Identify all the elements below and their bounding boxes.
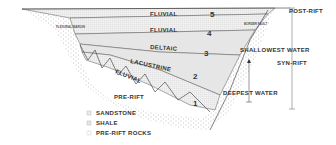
flexural-margin-label: FLEXURAL MARGIN [56, 25, 85, 29]
unit-4-label: FLUVIAL [150, 27, 177, 33]
unit-4-number: 4 [207, 29, 212, 38]
unit-5-label: FLUVIAL [150, 11, 177, 17]
unit-1-number: 1 [193, 99, 198, 108]
border-fault-label: BORDER FAULT [244, 22, 267, 26]
syn-rift-label: SYN-RIFT [277, 60, 307, 66]
legend-pre-rift: PRE-RIFT ROCKS [96, 130, 151, 136]
sandstone-swatch [87, 111, 91, 115]
legend-sandstone: SANDSTONE [96, 110, 136, 116]
legend-shale: SHALE [96, 120, 118, 126]
rift-basin-cross-section: FLUVIAL 5 FLUVIAL 4 DELTAIC 3 LACUSTRINE… [0, 0, 336, 145]
deepest-water-label: DEEPEST WATER [223, 90, 278, 96]
post-rift-label: POST-RIFT [289, 8, 323, 14]
shale-swatch [87, 121, 91, 125]
pre-rift-swatch [87, 131, 91, 135]
unit-5-number: 5 [210, 10, 215, 19]
pre-rift-label: PRE-RIFT [114, 94, 144, 100]
unit-3-number: 3 [204, 49, 209, 58]
unit-2-number: 2 [193, 72, 198, 81]
shallowest-water-label: SHALLOWEST WATER [240, 47, 310, 53]
